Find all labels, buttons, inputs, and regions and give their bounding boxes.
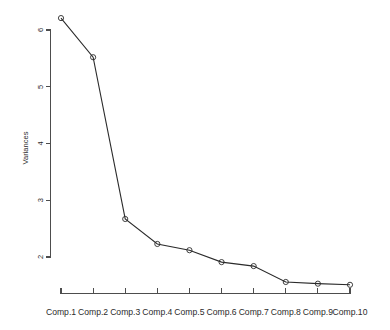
x-tick-label-comp-8: Comp.8: [271, 307, 301, 317]
y-tick-label-3: 3: [36, 198, 45, 202]
y-axis-title: Variances: [21, 131, 30, 164]
x-tick-label-comp-2: Comp.2: [78, 307, 108, 317]
x-tick-label-comp-10: Comp.10: [333, 307, 368, 317]
plot-background: [0, 0, 390, 330]
y-tick-label-4: 4: [36, 141, 45, 145]
x-tick-label-comp-1: Comp.1: [46, 307, 76, 317]
y-tick-label-6: 6: [36, 28, 45, 32]
y-tick-label-5: 5: [36, 85, 45, 89]
x-tick-label-comp-5: Comp.5: [174, 307, 204, 317]
x-tick-label-comp-9: Comp.9: [303, 307, 333, 317]
scree-plot-canvas: 6 5 4 3 2 Variances Comp.1 Comp.2 Comp.3…: [0, 0, 390, 330]
scree-plot-svg: 6 5 4 3 2 Variances Comp.1 Comp.2 Comp.3…: [0, 0, 390, 330]
x-tick-label-comp-4: Comp.4: [142, 307, 172, 317]
x-tick-label-comp-7: Comp.7: [239, 307, 269, 317]
y-tick-label-2: 2: [36, 255, 45, 259]
x-tick-label-comp-6: Comp.6: [207, 307, 237, 317]
x-tick-label-comp-3: Comp.3: [110, 307, 140, 317]
